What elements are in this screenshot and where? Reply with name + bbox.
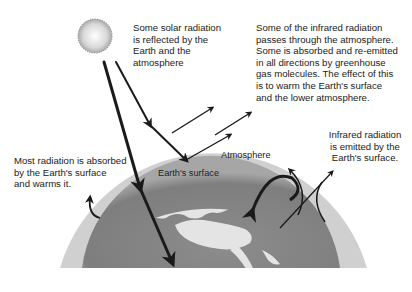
infrared-passes-label: Some of the infrared radiation passes th… (256, 22, 412, 103)
earth-surface-label: Earth's surface (158, 168, 219, 179)
sun-icon (78, 19, 112, 53)
atmosphere-label: Atmosphere (221, 150, 271, 161)
absorbed-radiation-label: Most radiation is absorbed by the Earth'… (14, 155, 144, 190)
reflected-radiation-label: Some solar radiation is reflected by the… (133, 22, 233, 68)
infrared-emitted-label: Infrared radiation is emitted by the Ear… (319, 129, 411, 164)
